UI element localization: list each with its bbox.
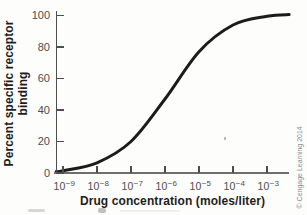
y-axis-title-line2: binding (16, 4, 30, 184)
y-axis-line (56, 11, 58, 174)
scan-speck (224, 137, 226, 140)
x-tick-label: 10−9 (49, 177, 79, 192)
binding-curve (56, 15, 289, 172)
x-axis-line (54, 172, 289, 174)
y-tick-mark (56, 141, 64, 142)
x-tick-mark (198, 166, 199, 173)
copyright-credit: © Cengage Learning 2014 (294, 109, 305, 209)
y-tick-mark (56, 15, 64, 16)
x-tick-mark (164, 166, 165, 173)
x-tick-label: 10−4 (219, 177, 249, 192)
x-axis-title: Drug concentration (moles/liter) (56, 194, 289, 208)
x-tick-mark (232, 166, 233, 173)
y-tick-mark (56, 109, 64, 110)
x-tick-mark (62, 166, 63, 173)
dose-response-figure: 02040608010010−910−810−710−610−510−410−3… (0, 0, 307, 215)
cropped-caption-remnant (98, 208, 106, 213)
x-tick-label: 10−7 (117, 177, 147, 192)
y-tick-mark (56, 78, 64, 79)
y-axis-title-line1: Percent specific receptor (3, 4, 17, 184)
cropped-caption-remnant (120, 210, 180, 212)
y-axis-title: Percent specific receptor binding (3, 4, 30, 184)
x-tick-label: 10−5 (185, 177, 215, 192)
x-tick-label: 10−6 (151, 177, 181, 192)
x-tick-mark (266, 166, 267, 173)
y-tick-mark (56, 46, 64, 47)
x-tick-mark (96, 166, 97, 173)
x-tick-label: 10−3 (253, 177, 283, 192)
x-tick-mark (130, 166, 131, 173)
x-tick-label: 10−8 (83, 177, 113, 192)
cropped-caption-remnant (28, 209, 45, 212)
